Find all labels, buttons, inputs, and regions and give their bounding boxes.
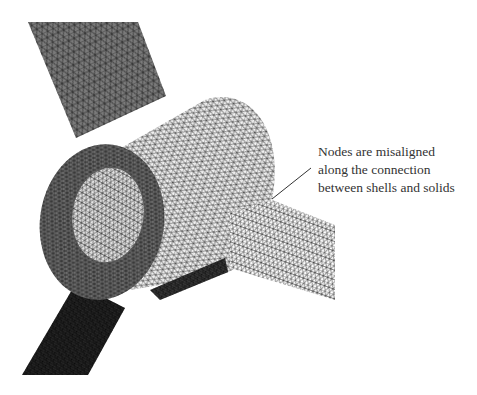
annotation-line-2: along the connection: [318, 161, 455, 179]
annotation-line-1: Nodes are misaligned: [318, 143, 455, 161]
mesh-figure: [0, 0, 477, 395]
top-shell-plate: [28, 22, 166, 138]
annotation-text: Nodes are misaligned along the connectio…: [318, 143, 455, 197]
annotation-line-3: between shells and solids: [318, 179, 455, 197]
annotation-leader-line: [272, 168, 311, 199]
right-shell-plate: [230, 200, 335, 300]
